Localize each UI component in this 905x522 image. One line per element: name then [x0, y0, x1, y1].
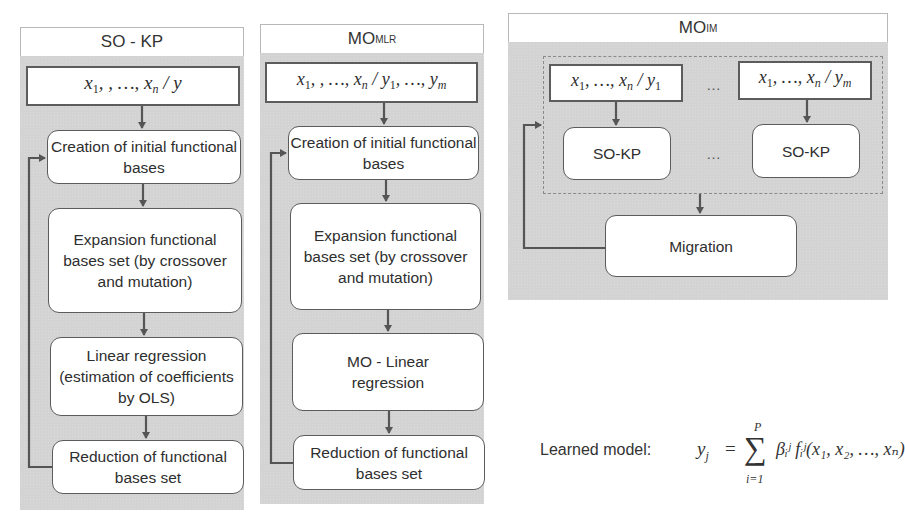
sum-icon: ∑: [744, 430, 767, 467]
formula-term: βᵢʲ fᵢʲ(x₁, x₂, …, xₙ): [776, 438, 905, 460]
learned-model-formula: Learned model: yj = P ∑ i=1 βᵢʲ fᵢʲ(x₁, …: [540, 420, 900, 510]
learned-model-label: Learned model:: [540, 441, 651, 459]
formula-sum-lower: i=1: [746, 472, 763, 487]
formula-lhs: yj: [697, 438, 709, 464]
formula-equals: =: [725, 438, 736, 460]
